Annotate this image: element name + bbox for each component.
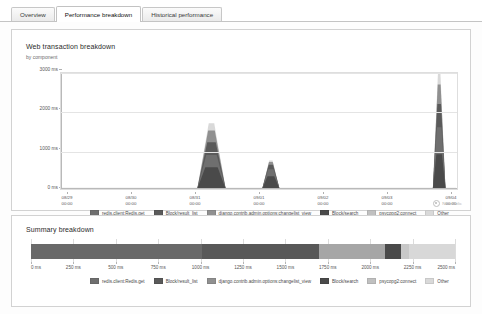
summary-tick-mark <box>370 262 371 264</box>
x-axis-labels: 08/2900:0008/3000:0008/3100:0009/0100:00… <box>60 192 458 206</box>
x-tick-time: 00:00 <box>190 201 201 207</box>
y-tick-label: 1000 ms <box>40 145 58 150</box>
summary-segment[interactable] <box>409 244 455 259</box>
x-tick-time: 00:00 <box>254 201 265 207</box>
new-relic-watermark: New Relic <box>433 200 462 207</box>
x-tick-label: 09/0100:00 <box>254 195 265 207</box>
legend-label: Block/search <box>332 279 358 284</box>
legend-label: redis.client:Redis.get <box>102 279 145 284</box>
summary-tick-mark <box>243 262 244 264</box>
x-axis-line <box>61 188 457 189</box>
summary-tick-label: 750 ms <box>151 265 166 270</box>
legend-label: Other <box>437 279 449 284</box>
legend-swatch-icon <box>320 278 329 284</box>
summary-axis: 0 ms250 ms500 ms750 ms1000 ms1250 ms1500… <box>31 262 455 274</box>
legend-swatch-icon <box>207 278 216 284</box>
tab-bar: Overview Performance breakdown Historica… <box>0 0 482 22</box>
tab-overview[interactable]: Overview <box>11 7 55 22</box>
x-tick-label: 08/3000:00 <box>126 195 137 207</box>
summary-bar-wrap <box>31 244 455 264</box>
x-tick-mark <box>323 192 324 194</box>
summary-breakdown-panel: Summary breakdown 0 ms250 ms500 ms750 ms… <box>11 215 471 307</box>
summary-gridline <box>455 239 456 264</box>
legend-swatch-icon <box>367 278 376 284</box>
legend-swatch-icon <box>90 278 99 284</box>
x-tick-mark <box>387 192 388 194</box>
summary-tick-mark <box>158 262 159 264</box>
x-tick-time: 00:00 <box>382 201 393 207</box>
breakdown-plot-area <box>60 72 458 190</box>
web-transaction-breakdown-panel: Web transaction breakdown by component 0… <box>11 29 471 211</box>
y-tick-label: 2000 ms <box>40 106 58 111</box>
y-tick-mark <box>59 69 62 70</box>
legend-label: Block/result_list <box>166 279 198 284</box>
legend-item[interactable]: Block/result_list <box>154 278 198 284</box>
summary-tick-mark <box>31 262 32 264</box>
summary-segment[interactable] <box>385 244 401 259</box>
breakdown-area-svg <box>61 73 457 189</box>
x-tick-time: 00:00 <box>318 201 329 207</box>
x-tick-label: 08/3100:00 <box>190 195 201 207</box>
y-axis-line <box>61 73 62 189</box>
breakdown-subtitle: by component <box>26 54 57 60</box>
x-tick-mark <box>67 192 68 194</box>
summary-segment[interactable] <box>202 244 319 259</box>
performance-breakdown-page: Overview Performance breakdown Historica… <box>0 0 482 314</box>
summary-tick-mark <box>328 262 329 264</box>
x-tick-time: 00:00 <box>126 201 137 207</box>
breakdown-series-areas <box>61 73 457 189</box>
x-tick-mark <box>131 192 132 194</box>
y-axis-labels: 0 ms1000 ms2000 ms3000 ms <box>26 68 58 190</box>
tab-list: Overview Performance breakdown Historica… <box>11 7 223 22</box>
summary-tick-label: 500 ms <box>108 265 123 270</box>
tab-historical-performance[interactable]: Historical performance <box>142 7 222 22</box>
legend-item[interactable]: django.contrib.admin.options:changelist_… <box>207 278 311 284</box>
legend-label: psycopg2:connect <box>379 279 416 284</box>
watermark-label: New Relic <box>442 201 462 206</box>
y-gridline <box>61 73 457 74</box>
y-gridline <box>61 152 457 153</box>
x-tick-mark <box>451 192 452 194</box>
legend-item[interactable]: Other <box>425 278 449 284</box>
x-tick-label: 09/0300:00 <box>382 195 393 207</box>
new-relic-logo-icon <box>433 200 440 207</box>
y-tick-label: 0 ms <box>48 185 58 190</box>
summary-tick-label: 0 ms <box>31 265 41 270</box>
summary-segment[interactable] <box>401 244 409 259</box>
summary-tick-label: 1750 ms <box>319 265 337 270</box>
legend-label: django.contrib.admin.options:changelist_… <box>219 279 311 284</box>
x-tick-mark <box>259 192 260 194</box>
active-tab-rule-mask <box>57 21 140 22</box>
summary-tick-mark <box>73 262 74 264</box>
summary-segment[interactable] <box>31 244 202 259</box>
y-tick-label: 3000 ms <box>40 67 58 72</box>
summary-title: Summary breakdown <box>26 226 94 233</box>
summary-tick-label: 1000 ms <box>192 265 210 270</box>
summary-tick-label: 1500 ms <box>277 265 295 270</box>
legend-swatch-icon <box>154 278 163 284</box>
legend-item[interactable]: psycopg2:connect <box>367 278 416 284</box>
summary-segment[interactable] <box>319 244 384 259</box>
summary-stacked-bar[interactable] <box>31 244 455 259</box>
summary-tick-label: 2500 ms <box>437 265 455 270</box>
legend-item[interactable]: redis.client:Redis.get <box>90 278 145 284</box>
summary-tick-mark <box>413 262 414 264</box>
summary-tick-label: 250 ms <box>66 265 81 270</box>
summary-tick-label: 2000 ms <box>361 265 379 270</box>
summary-tick-mark <box>116 262 117 264</box>
summary-tick-mark <box>285 262 286 264</box>
y-gridline <box>61 112 457 113</box>
summary-tick-mark <box>201 262 202 264</box>
x-tick-time: 00:00 <box>62 201 73 207</box>
x-tick-label: 08/2900:00 <box>62 195 73 207</box>
breakdown-title: Web transaction breakdown <box>26 43 115 50</box>
x-tick-mark <box>195 192 196 194</box>
legend-item[interactable]: Block/search <box>320 278 358 284</box>
tab-performance-breakdown[interactable]: Performance breakdown <box>56 6 141 22</box>
summary-tick-label: 1250 ms <box>234 265 252 270</box>
summary-legend: redis.client:Redis.getBlock/result_listd… <box>90 278 482 287</box>
x-tick-label: 09/0200:00 <box>318 195 329 207</box>
legend-swatch-icon <box>425 278 434 284</box>
summary-tick-mark <box>455 262 456 264</box>
summary-tick-label: 2250 ms <box>404 265 422 270</box>
